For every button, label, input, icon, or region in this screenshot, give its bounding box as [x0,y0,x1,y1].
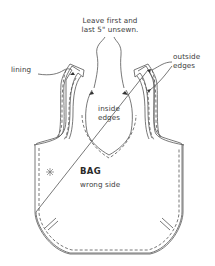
inside-edges-label: inside edges [92,105,126,122]
leader-top-right [114,37,124,88]
leader-top-left [94,37,105,88]
top-note-label: Leave first and last 5" unsewn. [76,17,144,34]
outside-edges-label: outside edges [173,53,200,70]
bag-pattern-diagram [0,0,215,266]
bag-subtitle: wrong side [80,181,120,190]
asterisk-icon [46,168,54,176]
lining-label: lining [11,66,31,75]
leader-outside-1 [152,62,172,70]
bag-title: BAG [80,166,101,176]
bag-outline [36,70,182,253]
